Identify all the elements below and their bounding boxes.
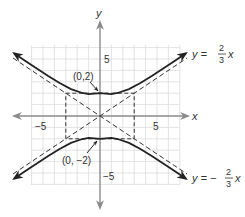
- y-tick-5: 5: [104, 54, 110, 65]
- svg-text:2: 2: [219, 43, 224, 53]
- x-tick-5: 5: [153, 121, 159, 132]
- svg-text:2: 2: [226, 167, 231, 177]
- svg-text:y =: y =: [191, 48, 208, 60]
- svg-text:3: 3: [226, 179, 231, 189]
- asymptote-label-negative: y = − 2 3 x: [191, 167, 241, 189]
- grid: [32, 45, 180, 185]
- svg-text:x: x: [234, 172, 241, 184]
- x-tick-neg5: −5: [35, 121, 47, 132]
- asymptote-label-positive: y = 2 3 x: [191, 43, 234, 65]
- svg-text:y = −: y = −: [191, 172, 217, 184]
- y-axis-label: y: [95, 7, 103, 19]
- svg-text:3: 3: [219, 55, 224, 65]
- vertex-label-upper: (0,2): [73, 71, 94, 82]
- svg-text:x: x: [227, 48, 234, 60]
- pointer-upper-vertex: [90, 82, 98, 91]
- vertex-label-lower: (0, −2): [62, 155, 91, 166]
- hyperbola-diagram: y x 5 −5 −5 5 (0,2) (0, −2) y = 2 3 x y …: [0, 0, 245, 217]
- x-axis-label: x: [191, 110, 198, 122]
- y-tick-neg5: −5: [103, 171, 115, 182]
